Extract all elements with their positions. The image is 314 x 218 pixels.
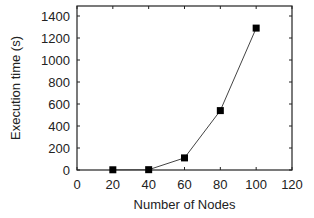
y-tick-label: 200	[48, 141, 70, 156]
x-axis-ticks: 020406080100120	[73, 6, 302, 192]
series-markers	[109, 25, 259, 174]
data-point-marker	[217, 107, 224, 114]
data-point-marker	[253, 25, 260, 32]
y-tick-label: 800	[48, 75, 70, 90]
y-tick-label: 400	[48, 119, 70, 134]
x-axis-label: Number of Nodes	[134, 197, 236, 212]
line-chart: 020406080100120 020040060080010001200140…	[0, 0, 314, 218]
x-tick-label: 100	[245, 177, 267, 192]
x-tick-label: 0	[73, 177, 80, 192]
x-tick-label: 20	[106, 177, 120, 192]
x-tick-label: 60	[177, 177, 191, 192]
y-axis-label: Execution time (s)	[8, 36, 23, 140]
y-tick-label: 600	[48, 97, 70, 112]
y-tick-label: 1400	[41, 9, 70, 24]
x-tick-label: 120	[281, 177, 303, 192]
data-point-marker	[145, 166, 152, 173]
y-tick-label: 1000	[41, 53, 70, 68]
data-point-marker	[181, 154, 188, 161]
series-line	[113, 28, 256, 170]
y-tick-label: 1200	[41, 31, 70, 46]
x-tick-label: 80	[213, 177, 227, 192]
plot-frame	[77, 6, 292, 170]
y-tick-label: 0	[63, 163, 70, 178]
x-tick-label: 40	[141, 177, 155, 192]
y-axis-ticks: 0200400600800100012001400	[41, 9, 292, 178]
data-point-marker	[109, 166, 116, 173]
